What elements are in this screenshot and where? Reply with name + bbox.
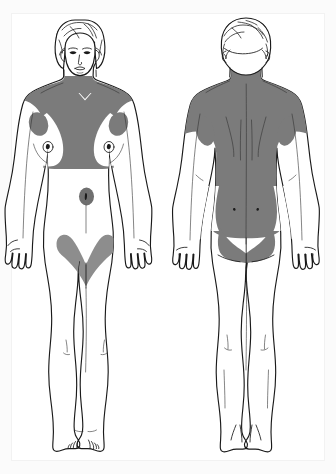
anterior-figure [5, 20, 152, 451]
body-figures-canvas [0, 0, 336, 474]
body-pain-chart: Body pain distribution chart Anterior (f… [0, 0, 336, 474]
posterior-figure [172, 18, 319, 452]
posterior-head-outline [221, 18, 270, 75]
anterior-face-outline [65, 33, 95, 76]
